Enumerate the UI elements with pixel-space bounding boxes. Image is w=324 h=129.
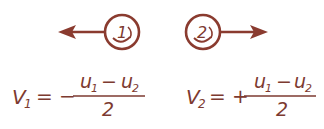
formula-2-var-sub: 2	[198, 97, 206, 111]
formula-2: V 2 = + u 1 − u 2 2	[186, 70, 316, 120]
particle-label-2: 2	[197, 23, 207, 42]
formula-1-op: = −	[36, 84, 76, 108]
formula-1-denominator: 2	[102, 98, 114, 120]
formula-2-num-a-sub: 1	[265, 82, 272, 95]
particle-2: 2	[186, 15, 268, 49]
formula-2-denominator: 2	[276, 98, 288, 120]
formula-2-num-minus: −	[276, 70, 292, 92]
formula-1-var-sub: 1	[24, 97, 32, 111]
collision-diagram: 1 2 V 1 = − u 1 − u 2 2 V 2 = + u 1 − u …	[0, 0, 324, 129]
particle-label-1: 1	[117, 23, 127, 42]
formula-1-num-minus: −	[101, 70, 117, 92]
particle-1: 1	[58, 15, 139, 49]
spin-arc-2b	[209, 27, 212, 38]
formula-1-num-b-sub: 2	[132, 82, 139, 95]
formula-1: V 1 = − u 1 − u 2 2	[12, 70, 145, 120]
spin-arc-1b	[128, 27, 131, 38]
formula-2-num-b-sub: 2	[305, 82, 312, 95]
formula-2-op: = +	[209, 84, 249, 108]
formula-1-num-a-sub: 1	[91, 82, 98, 95]
